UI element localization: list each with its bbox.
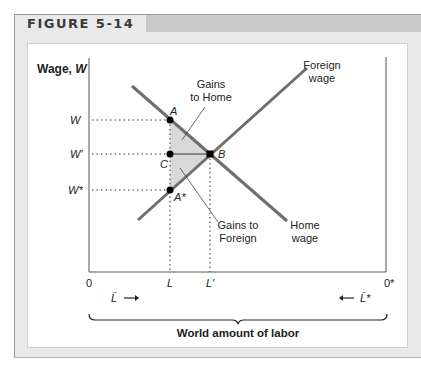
gains-home-label-2: to Home xyxy=(190,91,232,103)
right-arrow-icon xyxy=(124,295,139,301)
home-wage-label-2: wage xyxy=(291,232,318,244)
x-tick-l: L xyxy=(167,277,173,289)
gains-foreign-label-2: Foreign xyxy=(219,232,256,244)
y-tick-w: W xyxy=(70,114,82,126)
origin-home: 0 xyxy=(86,277,92,289)
world-labor-label: World amount of labor xyxy=(177,327,300,339)
point-a-star xyxy=(167,187,174,194)
label-b: B xyxy=(218,148,225,160)
home-wage-label-1: Home xyxy=(290,219,319,231)
foreign-wage-label-2: wage xyxy=(308,72,335,84)
gains-home-label-1: Gains xyxy=(197,78,226,90)
foreign-labor-label: L̄* xyxy=(360,292,371,304)
point-a xyxy=(167,117,174,124)
x-tick-l-prime: L′ xyxy=(206,277,215,289)
label-a-star: A* xyxy=(173,191,186,203)
foreign-wage-label-1: Foreign xyxy=(303,59,340,71)
world-labor-brace xyxy=(89,314,387,324)
origin-foreign: 0* xyxy=(384,277,395,289)
y-tick-w-prime: W′ xyxy=(70,148,83,160)
point-c xyxy=(167,151,174,158)
label-a: A xyxy=(169,105,177,117)
labor-migration-diagram: A B C A* Wage, W W W′ W* 0 L L′ 0* Forei… xyxy=(0,0,421,365)
gains-foreign-leader xyxy=(180,168,218,222)
home-labor-label: L̄ xyxy=(111,292,117,304)
gains-foreign-label-1: Gains to xyxy=(218,219,259,231)
left-arrow-icon xyxy=(339,295,354,301)
label-c: C xyxy=(160,158,168,170)
gains-home-leader xyxy=(182,107,205,140)
point-b xyxy=(207,151,214,158)
y-axis-title: Wage, W xyxy=(37,62,88,76)
y-tick-w-star: W* xyxy=(68,184,83,196)
